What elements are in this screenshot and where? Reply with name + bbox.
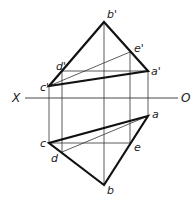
label-e-prime: e' — [134, 42, 144, 55]
label-e: e — [134, 141, 141, 154]
axis-label-x: X — [11, 91, 21, 105]
label-a: a — [152, 108, 159, 121]
label-c-prime: c' — [40, 81, 49, 94]
label-b-prime: b' — [107, 8, 117, 21]
label-c: c — [40, 137, 46, 150]
projection-diagram: X O b' e' d' a' c' a c e d b — [0, 0, 196, 204]
axis-label-o: O — [181, 91, 190, 105]
label-a-prime: a' — [151, 65, 161, 78]
label-d: d — [51, 152, 59, 165]
label-d-prime: d' — [56, 60, 66, 73]
label-b: b — [107, 184, 114, 197]
